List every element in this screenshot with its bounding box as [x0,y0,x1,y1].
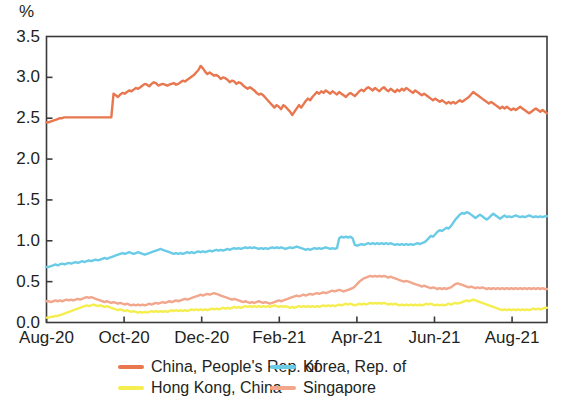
series-line [47,212,548,267]
x-axis-tick-label: Apr-21 [315,329,399,346]
data-series-group [47,66,548,318]
legend-label-singapore: Singapore [303,379,376,397]
series-line [47,66,548,122]
legend-swatch-china-icon [118,365,144,369]
legend-item-china[interactable]: China, People's Rep. of [0,358,270,376]
axis-ticks [47,77,513,322]
y-axis-tick-label: 2.0 [0,150,40,167]
legend-swatch-hongkong-icon [118,386,144,390]
y-axis-tick-label: 1.5 [0,191,40,208]
x-axis-tick-label: Dec-20 [160,329,244,346]
y-axis-tick-label: 3.0 [0,68,40,85]
y-axis-tick-label: 3.5 [0,28,40,45]
plot-frame [47,37,548,323]
legend-item-singapore[interactable]: Singapore [270,379,564,397]
x-axis-tick-label: Feb-21 [237,329,321,346]
legend-label-hongkong: Hong Kong, China [151,379,282,397]
x-axis-tick-label: Aug-21 [470,329,554,346]
chart-legend: China, People's Rep. of Korea, Rep. of H… [0,358,564,397]
y-axis-tick-label: 0.5 [0,273,40,290]
legend-swatch-korea-icon [270,365,296,369]
legend-item-korea[interactable]: Korea, Rep. of [270,358,564,376]
chart-container: % 3.53.02.52.01.51.00.50.0 Aug-20Oct-20D… [0,0,564,407]
legend-item-hongkong[interactable]: Hong Kong, China [0,379,270,397]
legend-row-1: China, People's Rep. of Korea, Rep. of [0,358,564,376]
x-axis-tick-label: Jun-21 [392,329,476,346]
y-axis-tick-label: 1.0 [0,232,40,249]
legend-row-2: Hong Kong, China Singapore [0,379,564,397]
x-axis-tick-label: Oct-20 [82,329,166,346]
y-axis-tick-label: 2.5 [0,109,40,126]
legend-swatch-singapore-icon [270,386,296,390]
x-axis-tick-label: Aug-20 [5,329,89,346]
legend-label-korea: Korea, Rep. of [303,358,406,376]
